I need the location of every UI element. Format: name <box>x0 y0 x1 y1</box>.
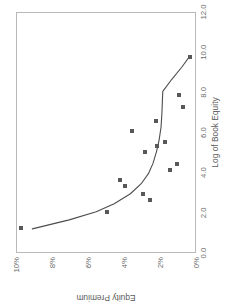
data-point <box>130 130 134 134</box>
y-axis-tick: 0% <box>192 257 201 268</box>
data-point <box>175 162 179 166</box>
y-axis-title: Equity Premium <box>16 291 196 305</box>
x-axis-tick: 6.0 <box>199 127 208 138</box>
x-axis-tick: 2.0 <box>199 207 208 218</box>
y-axis-tick: 4% <box>120 257 129 268</box>
x-axis-tick: 8.0 <box>199 87 208 98</box>
data-point <box>118 178 122 182</box>
chart-figure: Smoothed Premium over CAPM vs. Unadjuste… <box>0 0 228 307</box>
y-axis-tick: 2% <box>156 257 165 268</box>
x-axis-title: Log of Book Equity <box>210 12 220 253</box>
y-axis-tick: 8% <box>48 257 57 268</box>
y-axis-tick: 10% <box>12 257 21 273</box>
data-point <box>148 198 152 202</box>
y-axis-tick: 6% <box>84 257 93 268</box>
data-point <box>143 150 147 154</box>
data-point <box>177 93 181 97</box>
data-point <box>105 210 109 214</box>
data-point <box>168 168 172 172</box>
rotated-figure-wrapper: Smoothed Premium over CAPM vs. Unadjuste… <box>0 0 228 307</box>
data-point <box>154 119 158 123</box>
y-axis-title-text: Equity Premium <box>76 293 135 303</box>
smoothed-premium-trend-line <box>17 11 197 252</box>
data-point <box>188 55 192 59</box>
plot-inner <box>17 13 195 252</box>
data-point <box>155 144 159 148</box>
data-point <box>141 192 145 196</box>
data-point <box>123 184 127 188</box>
x-axis-tick: 12.0 <box>199 4 208 19</box>
data-point <box>19 226 23 230</box>
x-axis-tick: 4.0 <box>199 167 208 178</box>
data-point <box>163 140 167 144</box>
data-point <box>181 105 185 109</box>
x-axis-tick: 10.0 <box>199 45 208 60</box>
plot-area <box>16 12 196 253</box>
